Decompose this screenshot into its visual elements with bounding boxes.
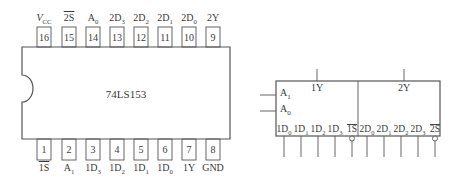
input-label: 1D1 [294,124,309,136]
pin-number: 16 [39,32,49,43]
top-pin-11: 112D1 [157,12,173,47]
bottom-pin-6: 61D0 [157,139,173,175]
input-1D0: 1D0 [277,124,292,157]
top-pin-13: 132D3 [109,12,125,47]
input-label: 1D0 [277,124,292,136]
input-2D3: 2D3 [411,124,426,157]
pin-number: 5 [139,144,144,155]
pin-number: 10 [184,32,194,43]
pin-label: VCC [36,12,52,25]
pin-number: 1 [42,144,47,155]
pin-number: 12 [136,32,146,43]
select-label: A0 [280,103,291,117]
input-2D0: 2D0 [360,124,375,157]
pin-label: 1Y [183,162,195,173]
pin-label: 2D0 [181,12,197,25]
top-pin-12: 122D2 [133,12,149,47]
pin-number: 8 [211,144,216,155]
input-label: 2D0 [360,124,375,136]
pin-label: 1D2 [109,162,125,175]
bottom-pin-8: 8GND [202,139,224,173]
pin-number: 13 [112,32,122,43]
pin-label: 2D3 [109,12,125,25]
pin-label: 2S [64,12,75,23]
inversion-bubble [433,136,438,141]
pin-number: 14 [88,32,98,43]
inversion-bubble [350,136,355,141]
logic-symbol: 1Y2YA1A01D01D11D21D31S2D02D12D22D32S [260,69,440,157]
pin-number: 9 [211,32,216,43]
pin-label: 2D2 [133,12,149,25]
input-1S: 1S [347,124,357,157]
top-pin-16: 16VCC [36,12,52,47]
bottom-pin-1: 11S [37,139,51,173]
select-label: A1 [280,87,291,101]
input-2D2: 2D2 [394,124,409,157]
pin-label: A1 [64,162,75,175]
pin-number: 2 [67,144,72,155]
bottom-pin-3: 31D3 [85,139,101,175]
pin-number: 6 [163,144,168,155]
pin-number: 11 [160,32,170,43]
pin-label: 1S [39,162,50,173]
pin-number: 3 [91,144,96,155]
top-pin-9: 92Y [206,12,220,47]
top-pin-14: 14A0 [86,12,100,47]
output-label: 2Y [398,82,410,93]
pin-label: 1D0 [157,162,173,175]
input-label: 1D2 [311,124,326,136]
bottom-pin-5: 51D1 [133,139,149,175]
74ls153-diagram: 74LS15316VCC152S14A0132D3122D2112D1102D0… [0,0,455,183]
pin-number: 7 [187,144,192,155]
input-1D1: 1D1 [294,124,309,157]
bottom-pin-2: 2A1 [62,139,76,175]
pin-label: A0 [88,12,99,25]
input-label: 2S [430,124,440,134]
pin-number: 4 [115,144,120,155]
chip-name: 74LS153 [106,88,147,100]
input-label: 2D1 [377,124,392,136]
pin-number: 15 [64,32,74,43]
pin-label: GND [202,162,224,173]
input-1D3: 1D3 [328,124,343,157]
bottom-pin-4: 41D2 [109,139,125,175]
pin-label: 2Y [207,12,219,23]
input-2S: 2S [430,124,440,157]
dip-package: 74LS15316VCC152S14A0132D3122D2112D1102D0… [22,12,230,175]
pin-label: 1D3 [85,162,101,175]
input-2D1: 2D1 [377,124,392,157]
input-label: 1S [347,124,357,134]
top-pin-15: 152S [62,12,76,47]
top-pin-10: 102D0 [181,12,197,47]
pin-label: 2D1 [157,12,173,25]
input-1D2: 1D2 [311,124,326,157]
input-label: 2D2 [394,124,409,136]
pin-label: 1D1 [133,162,149,175]
output-label: 1Y [311,82,323,93]
input-label: 1D3 [328,124,343,136]
input-label: 2D3 [411,124,426,136]
bottom-pin-7: 71Y [182,139,196,173]
